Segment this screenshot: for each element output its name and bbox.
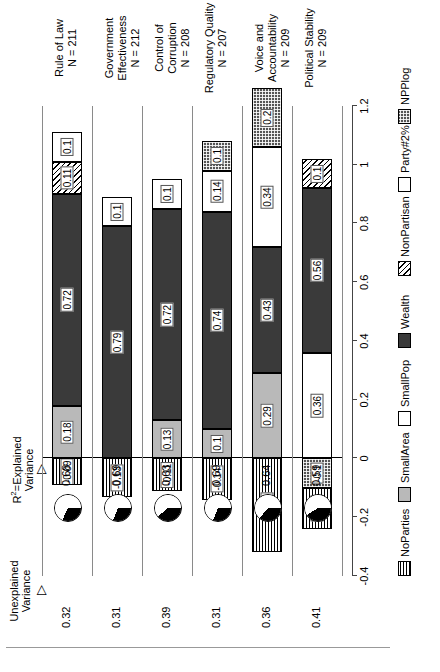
bar-segment-value: 0.43	[261, 298, 274, 321]
bar-segment-wealth[interactable]: 0.72	[52, 194, 82, 406]
pie-unexplained-slice	[155, 495, 181, 521]
column-separator	[342, 106, 343, 576]
r2-value: 0.59	[310, 465, 322, 486]
legend-swatch	[398, 487, 411, 502]
axis-tick-label: 0.8	[358, 216, 370, 231]
variance-pie-chart	[254, 494, 282, 522]
legend-label: NonPartisan	[399, 196, 411, 257]
bar-segment-value: 0.13	[161, 428, 174, 451]
bar-segment-value: 0.1	[161, 185, 174, 203]
variance-pie-chart	[54, 494, 82, 522]
r2-explained-variance-header: R2=Explained Variance	[8, 418, 35, 522]
bar-segment-wealth[interactable]: 0.56	[302, 188, 332, 353]
bar-segment-smallarea[interactable]: 0.29	[252, 373, 282, 458]
chart-canvas: Unexplained Variance ▷ R2=Explained Vari…	[0, 0, 440, 672]
legend-label: NPPlog	[399, 68, 411, 105]
r2-value: 0.68	[60, 465, 72, 486]
bar-segment-wealth[interactable]: 0.72	[152, 209, 182, 421]
axis-line	[352, 106, 353, 576]
bar-segment-smallarea[interactable]: 0.1	[202, 429, 232, 458]
column-separator	[92, 106, 93, 576]
bar-segment-party-2-[interactable]: 0.1	[52, 132, 82, 161]
category-name: Government Effectiveness	[103, 0, 129, 96]
bar-segment-nonpartisan[interactable]: 0.11	[52, 162, 82, 194]
axis-tick-label: -0.2	[358, 508, 370, 527]
bar-segment-npplog[interactable]: 0.2	[252, 88, 282, 147]
category-name: Voice and Accountability	[253, 0, 279, 96]
bar-segment-party-2-[interactable]: 0.1	[152, 179, 182, 208]
legend-label: Party#2%	[399, 125, 411, 173]
category-sample-size: N = 211	[66, 0, 79, 96]
category-name: Regulatory Quality	[203, 0, 216, 96]
left-margin-rule	[6, 647, 390, 648]
r2-value: 0.63	[160, 465, 172, 486]
axis-tick	[352, 164, 357, 165]
axis-tick-label: 0	[358, 455, 370, 461]
legend-item-smallpop[interactable]: SmallPop	[398, 360, 411, 426]
category-label: Voice and AccountabilityN = 209	[253, 0, 292, 96]
r2-value: 0.69	[210, 465, 222, 486]
bar-segment-value: 0.14	[211, 179, 224, 202]
bar-segment-party-2-[interactable]: 0.34	[252, 147, 282, 247]
legend-item-party-2-[interactable]: Party#2%	[398, 125, 411, 192]
category-label: Regulatory QualityN = 207	[203, 0, 229, 96]
pie-unexplained-slice	[255, 495, 281, 521]
bar-segment-smallarea[interactable]: 0.18	[52, 406, 82, 459]
unexplained-variance-value: 0.39	[160, 607, 172, 628]
axis-tick-label: -0.4	[358, 567, 370, 586]
axis-tick-label: 0.4	[358, 333, 370, 348]
bar-segment-value: 0.36	[311, 394, 324, 417]
pie-unexplained-slice	[105, 495, 131, 521]
category-sample-size: N = 209	[279, 0, 292, 96]
column-separator	[292, 106, 293, 576]
bar-segment-npplog[interactable]: 0.1	[202, 141, 232, 170]
plot-area: -0.090.180.720.110.1-0.130.790.1-0.110.1…	[42, 106, 342, 576]
bar-segment-party-2-[interactable]: 0.1	[102, 197, 132, 226]
r2-header-superscript: 2	[9, 491, 18, 495]
bar-segment-wealth[interactable]: 0.74	[202, 212, 232, 429]
bar-segment-value: 0.72	[161, 303, 174, 326]
legend-label: SmallArea	[399, 432, 411, 483]
bar-segment-value: 0.1	[211, 147, 224, 165]
r2-header-r: R	[11, 496, 23, 504]
axis-tick-label: 0.6	[358, 275, 370, 290]
legend-item-wealth[interactable]: Wealth	[398, 295, 411, 348]
category-label: Rule of LawN = 211	[53, 0, 79, 96]
category-sample-size: N = 212	[129, 0, 142, 96]
category-sample-size: N = 209	[316, 0, 329, 96]
bar-segment-value: 0.56	[311, 259, 324, 282]
bar-segment-value: 0.1	[311, 165, 324, 183]
category-name: Rule of Law	[53, 0, 66, 96]
bar-segment-value: 0.11	[61, 167, 74, 190]
bar-segment-value: 0.2	[261, 109, 274, 127]
axis-tick	[352, 340, 357, 341]
column-separator	[142, 106, 143, 576]
unexplained-variance-value: 0.41	[310, 607, 322, 628]
bar-segment-value: 0.34	[261, 185, 274, 208]
legend-swatch	[398, 561, 411, 576]
legend-item-noparties[interactable]: NoParties	[398, 509, 411, 576]
axis-tick-label: 1.2	[358, 98, 370, 113]
legend-label: Wealth	[399, 295, 411, 329]
bar-segment-wealth[interactable]: 0.79	[102, 226, 132, 458]
column-separator	[242, 106, 243, 576]
bar-segment-smallarea[interactable]: 0.13	[152, 420, 182, 458]
legend-label: NoParties	[399, 509, 411, 557]
bar-segment-nonpartisan[interactable]: 0.1	[302, 159, 332, 188]
axis-tick	[352, 516, 357, 517]
variance-pie-chart	[154, 494, 182, 522]
axis-tick-label: 0.2	[358, 392, 370, 407]
bar-segment-wealth[interactable]: 0.43	[252, 247, 282, 373]
legend-item-nonpartisan[interactable]: NonPartisan	[398, 196, 411, 276]
legend-item-smallarea[interactable]: SmallArea	[398, 432, 411, 502]
legend-swatch	[398, 109, 411, 124]
variance-pie-chart	[204, 494, 232, 522]
bar-segment-smallpop[interactable]: 0.36	[302, 353, 332, 459]
unexplained-header-line2: Variance	[20, 570, 32, 613]
axis-tick-label: 1	[358, 162, 370, 168]
bar-segment-party-2-[interactable]: 0.14	[202, 171, 232, 212]
legend-item-npplog[interactable]: NPPlog	[398, 68, 411, 124]
legend-swatch	[398, 177, 411, 192]
bar-segment-value: 0.18	[61, 420, 74, 443]
category-name: Political Stability	[303, 0, 316, 96]
